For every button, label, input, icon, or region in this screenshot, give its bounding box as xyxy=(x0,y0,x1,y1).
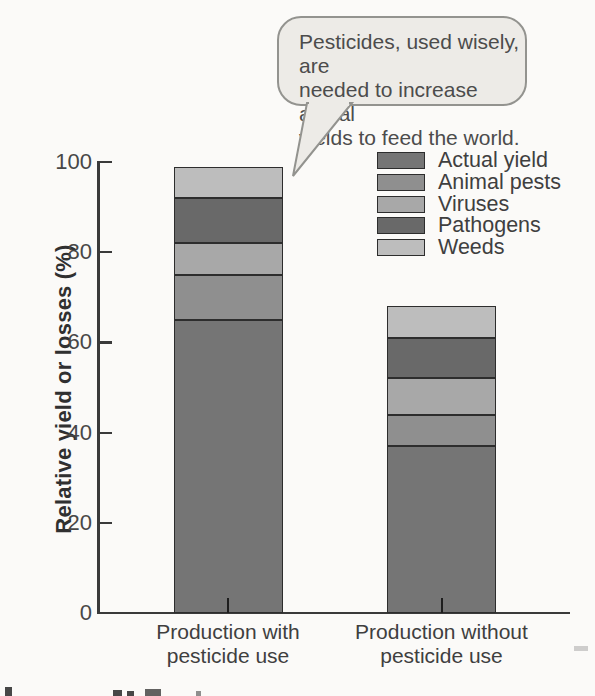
legend-swatch xyxy=(377,174,425,191)
legend-swatch xyxy=(377,196,425,213)
legend-row: Viruses xyxy=(377,196,561,213)
y-tick-label: 0 xyxy=(32,601,92,625)
x-tick xyxy=(441,598,443,613)
bar-segment-actual-yield xyxy=(387,446,496,613)
cropped-text-fragment xyxy=(196,691,201,696)
x-tick xyxy=(227,598,229,613)
bar-segment-viruses xyxy=(387,378,496,414)
scan-smudge xyxy=(574,646,588,651)
legend-row: Pathogens xyxy=(377,217,561,234)
y-tick xyxy=(99,522,112,524)
bar-segment-weeds xyxy=(174,167,283,199)
y-tick xyxy=(99,161,112,163)
cropped-text-fragment xyxy=(113,690,122,696)
bar-segment-pathogens xyxy=(174,198,283,243)
stacked-bar-chart-figure: Relative yield or losses (%) 02040608010… xyxy=(0,0,595,696)
legend-row: Weeds xyxy=(377,239,561,256)
category-label: Production withpesticide use xyxy=(118,620,338,668)
legend-swatch xyxy=(377,239,425,256)
cropped-text-fragment xyxy=(5,687,12,696)
legend-swatch xyxy=(377,217,425,234)
y-tick-label: 100 xyxy=(32,150,92,174)
bar-segment-animal-pests xyxy=(387,415,496,447)
y-axis-line xyxy=(97,161,100,614)
bar-segment-pathogens xyxy=(387,338,496,379)
y-tick xyxy=(99,432,112,434)
legend-row: Actual yield xyxy=(377,152,561,169)
bubble-tail xyxy=(280,95,370,187)
legend-swatch xyxy=(377,152,425,169)
category-label: Production withoutpesticide use xyxy=(332,620,552,668)
x-axis-line xyxy=(97,612,570,615)
y-tick-label: 40 xyxy=(32,421,92,445)
y-tick-label: 60 xyxy=(32,330,92,354)
legend-row: Animal pests xyxy=(377,174,561,191)
annotation-bubble: Pesticides, used wisely, are needed to i… xyxy=(277,16,527,106)
y-tick xyxy=(99,251,112,253)
y-tick xyxy=(99,341,112,343)
bar-segment-actual-yield xyxy=(174,320,283,613)
annotation-line-1: Pesticides, used wisely, are xyxy=(299,30,519,77)
y-tick-label: 20 xyxy=(32,511,92,535)
cropped-text-fragment xyxy=(127,691,134,696)
y-tick-label: 80 xyxy=(32,240,92,264)
cropped-text-fragment xyxy=(145,689,161,696)
bar-segment-viruses xyxy=(174,243,283,275)
legend: Actual yieldAnimal pestsVirusesPathogens… xyxy=(377,152,561,261)
bar-segment-weeds xyxy=(387,306,496,338)
bar-segment-animal-pests xyxy=(174,275,283,320)
legend-label: Weeds xyxy=(438,235,505,260)
y-axis-title: Relative yield or losses (%) xyxy=(51,239,77,539)
